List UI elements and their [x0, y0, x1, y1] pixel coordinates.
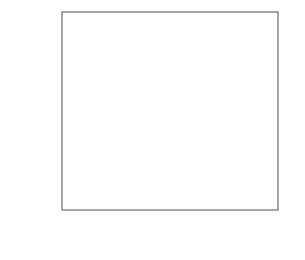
chart-canvas	[0, 0, 305, 260]
figure-container	[0, 0, 305, 260]
plot-background	[62, 12, 278, 210]
